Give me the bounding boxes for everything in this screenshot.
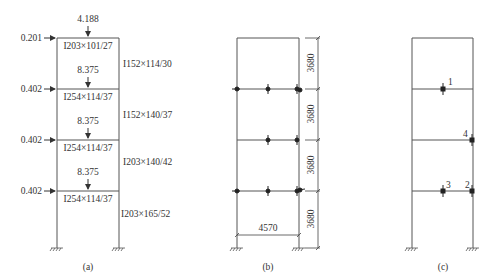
beam-section-label: I203×101/27 (63, 41, 112, 51)
lateral-load-label: 0.402 (21, 186, 43, 196)
panel-a-lateral-load-arrows (44, 38, 55, 191)
panel-b-supports (230, 248, 305, 251)
panel-b-caption: (b) (262, 262, 273, 273)
lateral-load-label: 0.402 (21, 135, 43, 145)
point-label-3: 3 (446, 180, 451, 190)
beam-section-label: I254×114/37 (64, 194, 113, 204)
frame-diagrams: 4.188 8.375 8.375 8.375 0.201 0.402 0.40… (0, 0, 494, 275)
panel-c-supports (405, 248, 479, 251)
beam-section-label: I254×114/37 (64, 143, 113, 153)
panel-a-caption: (a) (83, 262, 94, 273)
panel-c-caption: (c) (438, 262, 449, 273)
bay-width-dimension (235, 233, 301, 237)
point-label-4: 4 (463, 129, 468, 139)
beam-section-label: I254×114/37 (64, 92, 113, 102)
point-label-2: 2 (465, 180, 470, 190)
storey-height-label: 3680 (306, 155, 316, 174)
bay-width-label: 4570 (259, 223, 278, 233)
storey-height-label: 3680 (306, 53, 316, 72)
column-section-label: I203×165/52 (121, 209, 170, 219)
lateral-load-label: 0.402 (21, 84, 43, 94)
floor-point-load-label: 8.375 (77, 65, 99, 75)
panel-a-supports (50, 248, 125, 251)
column-section-label: I152×140/37 (123, 110, 172, 120)
storey-height-label: 3680 (306, 104, 316, 123)
top-point-load-label: 4.188 (77, 14, 99, 24)
storey-height-label: 3680 (306, 209, 316, 228)
column-section-label: I152×114/30 (123, 59, 172, 69)
point-label-1: 1 (448, 77, 453, 87)
floor-point-load-label: 8.375 (77, 116, 99, 126)
column-section-label: I203×140/42 (123, 157, 172, 167)
lateral-load-label: 0.201 (21, 33, 43, 43)
panel-c-frame (412, 38, 473, 248)
floor-point-load-label: 8.375 (77, 167, 99, 177)
